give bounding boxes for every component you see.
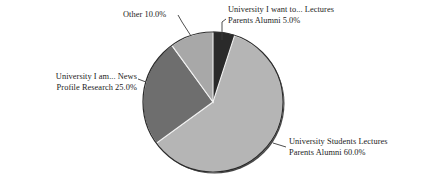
slice-label-i-am-line2: Profile Research 25.0% [9, 83, 137, 94]
leader-line-students [273, 143, 286, 147]
slice-label-want-to: University I want to... Lectures Parents… [228, 5, 334, 26]
slice-label-want-to-line2: Parents Alumni 5.0% [228, 16, 334, 27]
slice-label-i-am-line1: University I am... News [9, 72, 137, 83]
leader-line-i-am [138, 79, 146, 82]
pie-chart-figure: University I want to... Lectures Parents… [0, 0, 426, 177]
slice-label-i-am: University I am... News Profile Research… [9, 72, 137, 93]
slice-label-students-line1: University Students Lectures [289, 137, 388, 148]
leader-line-other [178, 15, 191, 36]
slice-label-students: University Students Lectures Parents Alu… [289, 137, 388, 158]
slice-label-students-line2: Parents Alumni 60.0% [289, 148, 388, 159]
slice-label-other: Other 10.0% [123, 10, 166, 21]
slice-label-want-to-line1: University I want to... Lectures [228, 5, 334, 16]
slice-label-other-line1: Other 10.0% [123, 10, 166, 21]
